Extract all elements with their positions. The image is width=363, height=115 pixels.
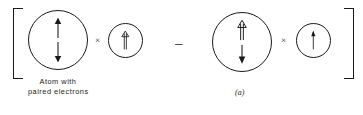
multiplication-symbol-2: × <box>281 36 286 45</box>
spin-down-arrow <box>239 45 246 64</box>
atom-4-circle <box>296 23 331 58</box>
atom-1-circle <box>28 10 88 70</box>
atom-1-caption-line1: Atom with <box>28 77 88 87</box>
spin-up-arrow <box>55 18 62 38</box>
left-bracket <box>13 8 23 79</box>
figure-label: (a) <box>235 88 244 97</box>
spin-down-arrow <box>55 42 62 62</box>
spin-up-arrow <box>238 20 247 40</box>
right-bracket <box>344 8 354 79</box>
atom-2-circle <box>108 23 143 58</box>
atom-1-caption-line2: paired electrons <box>28 87 88 97</box>
spin-up-arrow <box>122 31 129 49</box>
atom-3-circle <box>212 12 272 72</box>
figure-container: Atom with paired electrons × – <box>0 0 363 115</box>
atom-1-caption: Atom with paired electrons <box>28 77 88 97</box>
minus-symbol: – <box>175 36 183 51</box>
spin-up-arrow <box>311 31 315 50</box>
multiplication-symbol-1: × <box>95 36 100 45</box>
